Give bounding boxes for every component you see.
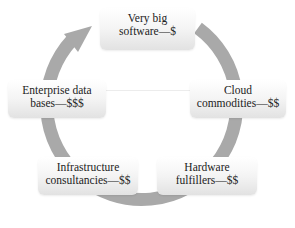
node-label-line1: Enterprise data: [8, 84, 106, 97]
node-label-line1: Cloud: [190, 84, 286, 97]
node-label-line2: consultancies—$$: [38, 174, 138, 187]
node-label-line1: Very big: [100, 12, 195, 25]
node-label-line2: commodities—$$: [190, 97, 286, 110]
node-label-line2: bases—$$$: [8, 97, 106, 110]
node-hardware-fulfillers: Hardware fulfillers—$$: [157, 157, 257, 195]
node-label-line2: fulfillers—$$: [157, 174, 257, 187]
node-infrastructure-consultancies: Infrastructure consultancies—$$: [38, 157, 138, 195]
node-label-line1: Infrastructure: [38, 161, 138, 174]
node-label-line2: software—$: [100, 25, 195, 38]
node-enterprise-databases: Enterprise data bases—$$$: [8, 80, 106, 118]
node-cloud-commodities: Cloud commodities—$$: [190, 80, 286, 118]
node-very-big-software: Very big software—$: [100, 8, 195, 50]
node-label-line1: Hardware: [157, 161, 257, 174]
